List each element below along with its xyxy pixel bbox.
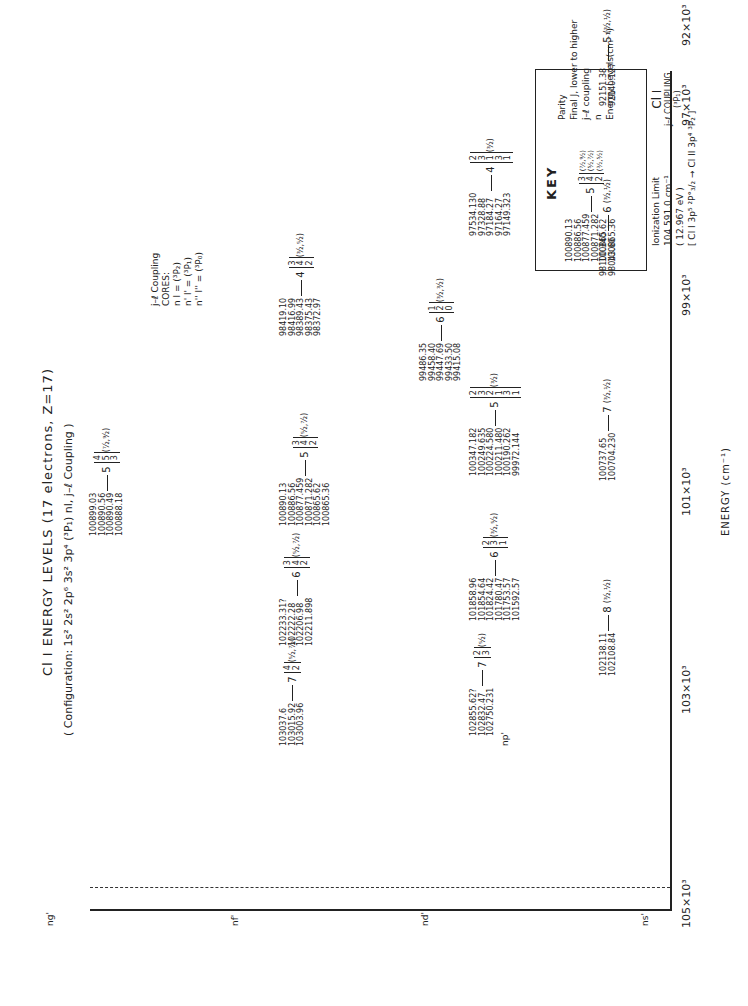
column-label-np: np' <box>500 732 510 746</box>
diagram-title: Cl I ENERGY LEVELS (17 electrons, Z=17) <box>40 368 55 676</box>
key-title: KEY <box>544 166 559 200</box>
level-nf-6: 102233.31?102222.28102206.98102211.898 6… <box>280 533 314 646</box>
level-ns-7: 100737.65100704.230 7 (³⁄₂,¹⁄₂) <box>600 379 617 481</box>
tick-92: 92×10³ <box>680 4 693 46</box>
ionization-limit-line <box>90 887 670 888</box>
level-nf-4: 98419.1098416.9998389.4398375.4398372.97… <box>280 233 323 336</box>
key-annotations: Parity Final J, lower to higher j–ℓ coup… <box>556 20 616 120</box>
energy-level-diagram: Cl I ENERGY LEVELS (17 electrons, Z=17) … <box>0 0 748 1006</box>
column-label-nf: nf' <box>230 915 240 926</box>
cores-legend: j–ℓ Coupling CORES: n l = (³P₂) n' l' = … <box>150 252 205 306</box>
level-ns-8: 102138.11102108.84 8 (³⁄₂,¹⁄₂) <box>600 579 617 676</box>
level-ng-5: 100899.03100890.56100890.49100888.18 5 4… <box>90 428 124 536</box>
column-label-nd: nd' <box>420 912 430 926</box>
energy-axis-top-line <box>90 910 670 912</box>
level-np-6: 99486.3599458.4099447.6999433.5099415.08… <box>420 278 463 381</box>
tick-105: 105×10³ <box>680 879 693 928</box>
level-nd-7: 102855.62?102832.47102750.231 7 23 (⁵⁄₂) <box>470 633 496 736</box>
column-label-ns: ns' <box>640 913 650 926</box>
core-item: n' l' = (³P₁) <box>183 252 194 306</box>
key-box: KEY 100890.13100886.56100877.459100871.2… <box>535 69 647 271</box>
key-example-level: 100890.13100886.56100877.459100871.28210… <box>566 150 617 262</box>
level-nd-6: 101858.96101854.64101824.42101780.471017… <box>470 513 521 621</box>
y-axis-label: ENERGY (cm⁻¹) <box>720 447 731 536</box>
level-nd-5: 100347.182100249.635100224.580100211.480… <box>470 373 521 476</box>
ionization-title: Ionization Limit <box>650 111 662 246</box>
level-nf-5: 100890.13100886.56100877.459100871.28210… <box>280 413 331 526</box>
cores-subtitle: CORES: <box>161 252 172 306</box>
tick-103: 103×10³ <box>680 665 693 714</box>
ionization-transition: [ Cl I 3p⁵ ²P°₃/₂ → Cl II 3p⁴ ³P₂ ] <box>686 111 698 246</box>
ionization-value: 104 591.0 cm⁻¹ <box>662 111 674 246</box>
column-label-ng: ng' <box>45 912 55 926</box>
ionization-info: Ionization Limit 104 591.0 cm⁻¹ ( 12.967… <box>650 111 698 246</box>
ionization-ev: ( 12.967 eV ) <box>674 111 686 246</box>
tick-101: 101×10³ <box>680 467 693 516</box>
level-nd-4: 97534.13097328.8897184.2797164.2797149.3… <box>470 138 513 236</box>
core-item: n'' l'' = (³P₀) <box>194 252 205 306</box>
level-nf-7: 103037.6103015.92103003.96 7 42 (⁵⁄₂,⁷⁄₂… <box>280 638 306 746</box>
core-item: n l = (³P₂) <box>172 252 183 306</box>
cores-title: j–ℓ Coupling <box>150 252 161 306</box>
tick-99: 99×10³ <box>680 274 693 316</box>
diagram-subtitle: ( Configuration: 1s² 2s² 2p⁶ 3s² 3p⁴ (³P… <box>62 423 75 736</box>
